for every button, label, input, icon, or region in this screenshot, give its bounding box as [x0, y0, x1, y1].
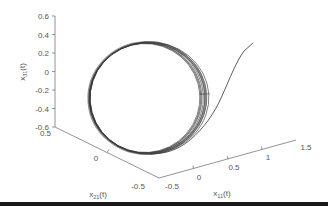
x-tick-label: 0 — [197, 173, 202, 182]
y-tick-label: 0.5 — [40, 129, 52, 138]
z-tick-label: 0.4 — [38, 31, 50, 40]
trajectory-series — [85, 38, 253, 158]
3d-phase-plot: 0.6 0.4 0.2 0 -0.2 -0.4 -0.6 x31(t) 0.5 … — [0, 0, 328, 206]
x-axis-label: x11(t) — [213, 189, 231, 199]
x-tick-label: 1.5 — [300, 143, 312, 152]
y-axis-label: x21(t) — [89, 190, 107, 200]
z-axis-label: x31(t) — [18, 63, 28, 81]
z-axis: 0.6 0.4 0.2 0 -0.2 -0.4 -0.6 x31(t) — [18, 12, 55, 132]
x-tick-label: 0.5 — [228, 163, 240, 172]
y-tick-label: -0.5 — [131, 182, 145, 191]
x-tick-label: 1 — [266, 153, 271, 162]
z-tick-label: 0 — [45, 68, 50, 77]
x-axis: -0.5 0 0.5 1 1.5 x11(t) — [159, 140, 312, 199]
y-tick-label: 0 — [94, 154, 99, 163]
bottom-border-bar — [0, 202, 328, 206]
x-tick-label: -0.5 — [165, 182, 179, 191]
z-tick-label: 0.6 — [38, 12, 50, 21]
y-axis: 0.5 0 -0.5 x21(t) — [40, 127, 159, 200]
z-tick-label: -0.4 — [35, 105, 49, 114]
z-tick-label: 0.2 — [38, 49, 50, 58]
z-tick-label: -0.2 — [35, 86, 49, 95]
